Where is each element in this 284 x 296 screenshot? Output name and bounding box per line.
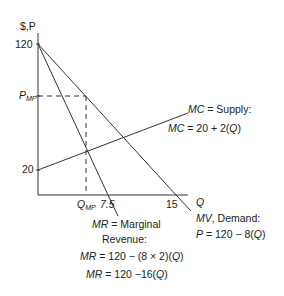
mc-eq-text: = 20 + 2(	[184, 122, 229, 134]
mv-eq-symbol: P	[196, 228, 203, 240]
mr-label-equation-1: MR = 120 − (8 × 2)(Q)	[80, 250, 184, 262]
mv-eq-text: = 120 − 8(	[203, 228, 254, 240]
marginal-cost-line	[38, 113, 188, 170]
mr-label-title: MR = Marginal	[92, 218, 161, 230]
mc-eq-close: )	[237, 122, 241, 134]
marginal-revenue-line	[38, 44, 108, 195]
demand-leader-line	[176, 195, 191, 211]
mv-eq-q: Q	[254, 228, 262, 240]
demand-label-title: MV, Demand:	[196, 212, 260, 224]
mr-eq1-symbol: MR	[80, 250, 96, 262]
demand-label-equation: P = 120 − 8(Q)	[196, 228, 265, 240]
mc-label-title: MC = Supply:	[188, 103, 251, 115]
mr-eq1-q: Q	[172, 250, 180, 262]
mr-eq2-close: )	[164, 268, 168, 280]
mr-eq1-text: = 120 − (8 × 2)(	[96, 250, 172, 262]
mv-eq-close: )	[262, 228, 266, 240]
mr-eq1-close: )	[180, 250, 184, 262]
x-axis-label: Q	[196, 196, 204, 208]
qmp-sub: MP	[85, 204, 96, 211]
mr-title-text: = Marginal	[108, 218, 160, 230]
qmp-main: Q	[77, 198, 85, 210]
mr-eq2-symbol: MR	[86, 268, 102, 280]
mr-eq2-q: Q	[156, 268, 164, 280]
mr-eq2-text: = 120 −16(	[102, 268, 156, 280]
mc-label-equation: MC = 20 + 2(Q)	[168, 122, 241, 134]
y-tick-20: 20	[22, 163, 34, 175]
mv-symbol: MV	[196, 212, 212, 224]
mc-symbol: MC	[188, 103, 204, 115]
mr-label-subtitle: Revenue:	[102, 233, 147, 245]
pmp-main: P	[19, 89, 26, 101]
mr-symbol: MR	[92, 218, 108, 230]
mr-label-equation-2: MR = 120 −16(Q)	[86, 268, 168, 280]
x-tick-qmp: QMP	[77, 198, 96, 214]
mc-title-text: = Supply:	[204, 103, 251, 115]
x-tick-15: 15	[166, 198, 178, 210]
y-tick-pmp: PMP	[19, 89, 37, 105]
demand-line	[38, 44, 176, 195]
mc-eq-symbol: MC	[168, 122, 184, 134]
pmp-sub: MP	[26, 95, 37, 102]
x-tick-7-5: 7.5	[100, 198, 115, 210]
mv-title-text: , Demand:	[212, 212, 260, 224]
y-tick-120: 120	[15, 38, 33, 50]
y-axis-label: $,P	[20, 20, 36, 32]
